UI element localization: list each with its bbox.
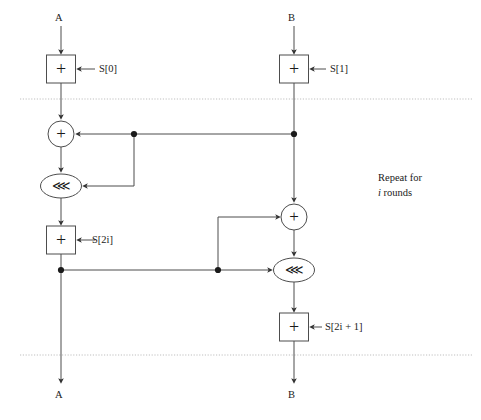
- subkey-label-s2i: S[2i]: [92, 233, 113, 246]
- junction-dot-mid: [131, 131, 137, 137]
- xor-left-glyph: +: [46, 124, 76, 144]
- input-label-b: B: [288, 11, 295, 24]
- output-label-a: A: [55, 388, 63, 401]
- subkey-label-s2i-plus-1: S[2i + 1]: [325, 320, 362, 333]
- repeat-annotation-rounds-word: rounds: [381, 187, 412, 198]
- repeat-annotation-line1: Repeat for: [378, 170, 422, 185]
- input-label-a: A: [55, 11, 63, 24]
- rotate-right-glyph: ⋘: [274, 262, 314, 277]
- subkey-label-s0: S[0]: [99, 62, 117, 75]
- add-box-s1-glyph: +: [279, 58, 309, 80]
- add-box-s2i-glyph: +: [46, 229, 76, 251]
- output-label-b: B: [288, 388, 295, 401]
- junction-dot-b-top: [291, 131, 297, 137]
- add-box-s0-glyph: +: [46, 58, 76, 80]
- junction-dot-a-low: [58, 267, 64, 273]
- junction-dot-low-mid: [215, 267, 221, 273]
- repeat-annotation-line2: i rounds: [378, 185, 422, 200]
- xor-right-glyph: +: [279, 207, 309, 227]
- add-box-s2i1-glyph: +: [279, 316, 309, 338]
- repeat-annotation: Repeat for i rounds: [378, 170, 422, 200]
- subkey-label-s1: S[1]: [330, 62, 348, 75]
- rotate-left-glyph: ⋘: [41, 178, 81, 193]
- rc5-round-diagram: + + + + + + ⋘ ⋘ A B A B S[0] S[1] S[2i] …: [0, 0, 481, 420]
